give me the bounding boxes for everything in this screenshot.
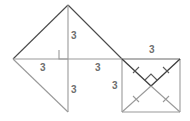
diagonal-top-right-upper-half — [151, 59, 180, 86]
kite-upper-left-side — [13, 5, 68, 59]
label-square-left: 3 — [112, 81, 118, 91]
label-base-right: 3 — [95, 63, 101, 73]
diagonal-top-left-upper-half — [122, 59, 151, 86]
geometry-diagram-svg — [0, 0, 190, 121]
label-base-left: 3 — [40, 63, 46, 73]
label-square-top: 3 — [149, 45, 155, 55]
label-altitude-upper: 3 — [71, 31, 77, 41]
label-altitude-lower: 3 — [71, 85, 77, 95]
geometry-figure: 3 3 3 3 3 3 — [0, 0, 190, 121]
right-angle-mark-at-foot — [59, 50, 68, 59]
right-square-group — [122, 59, 180, 112]
right-angle-mark-at-crossing — [145, 74, 157, 80]
